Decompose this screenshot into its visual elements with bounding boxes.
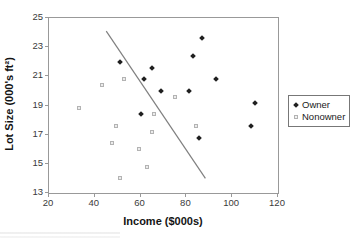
y-tick-label: 25 [13,12,43,22]
x-axis-title: Income ($000s) [123,215,202,227]
legend-marker-nonowner [294,115,298,119]
legend-item-nonowner: Nonowner [294,111,347,123]
y-tick-label: 19 [13,100,43,110]
y-tick-mark [45,17,48,18]
y-tick-mark [45,75,48,76]
x-tick-label: 120 [260,198,294,208]
y-tick-label: 15 [13,158,43,168]
plot-area [48,17,279,194]
scatter-plot-figure: Lot Size (000's ft²) Income ($000s) 2040… [0,0,356,239]
y-tick-mark [45,105,48,106]
scan-artifact [0,230,120,239]
legend-marker-owner [293,102,299,108]
y-tick-label: 17 [13,129,43,139]
separator-line [49,18,278,193]
x-tick-label: 60 [123,198,157,208]
x-tick-label: 40 [77,198,111,208]
y-tick-mark [45,46,48,47]
x-tick-label: 20 [31,198,65,208]
y-tick-mark [45,192,48,193]
legend-item-label: Owner [302,99,330,111]
y-tick-mark [45,134,48,135]
y-tick-label: 13 [13,187,43,197]
legend-item-owner: Owner [294,99,347,111]
y-tick-label: 23 [13,41,43,51]
legend-box: OwnerNonowner [288,95,350,127]
y-tick-label: 21 [13,70,43,80]
x-tick-label: 80 [168,198,202,208]
x-tick-label: 100 [214,198,248,208]
y-tick-mark [45,163,48,164]
legend-item-label: Nonowner [302,111,345,123]
